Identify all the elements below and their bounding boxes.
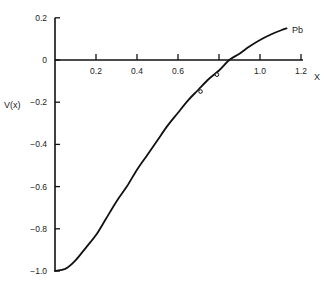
x-tick-label: 0.4 xyxy=(131,66,143,76)
data-point-markers xyxy=(199,73,219,93)
x-axis-label: X xyxy=(314,72,320,82)
y-tick-label: −1.0 xyxy=(30,266,47,276)
x-tick-label: 0.2 xyxy=(90,66,102,76)
y-tick-label: 0.2 xyxy=(35,13,47,23)
x-tick-label: 1.2 xyxy=(295,66,307,76)
data-point-marker xyxy=(215,73,219,77)
y-tick-label: −0.8 xyxy=(30,224,47,234)
curve-label-pb: Pb xyxy=(292,25,303,35)
y-tick-label: 0 xyxy=(42,55,47,65)
data-point-marker xyxy=(199,90,203,94)
x-axis-ticks: 0.20.40.61.01.2 xyxy=(90,54,307,76)
potential-chart: 0.20−0.2−0.4−0.6−0.8−1.0 0.20.40.61.01.2… xyxy=(0,0,336,290)
y-tick-label: −0.2 xyxy=(30,97,47,107)
pb-curve xyxy=(55,28,287,271)
x-tick-label: 0.6 xyxy=(172,66,184,76)
y-tick-label: −0.4 xyxy=(30,139,47,149)
y-axis-label: V(x) xyxy=(4,100,21,110)
x-tick-label: 1.0 xyxy=(254,66,266,76)
y-tick-label: −0.6 xyxy=(30,182,47,192)
